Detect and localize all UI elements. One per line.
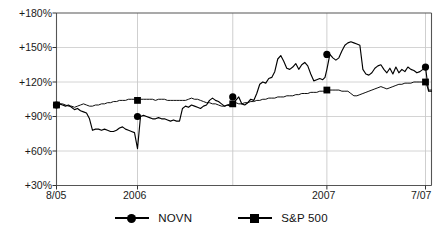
legend-item-novn: NOVN — [115, 212, 192, 224]
gridlines — [57, 13, 432, 186]
series-lines — [57, 42, 432, 149]
legend-marker-circle-icon — [115, 212, 149, 224]
axis-lines — [53, 13, 432, 190]
x-axis-tick-label: 2006 — [123, 190, 146, 201]
stock-performance-chart: +180% +150% +120% +90% +60% +30% 8/05 20… — [0, 0, 443, 237]
x-axis-tick-label: 8/05 — [46, 190, 66, 201]
legend-label: S&P 500 — [277, 212, 328, 224]
plot-area — [0, 0, 443, 237]
series-markers — [53, 51, 429, 120]
legend-label: NOVN — [154, 212, 192, 224]
legend-item-sp500: S&P 500 — [238, 212, 328, 224]
chart-legend: NOVN S&P 500 — [0, 206, 443, 230]
x-axis-tick-label: 2007 — [312, 190, 335, 201]
x-axis-tick-label: 7/07 — [411, 190, 431, 201]
legend-marker-square-icon — [238, 212, 272, 224]
